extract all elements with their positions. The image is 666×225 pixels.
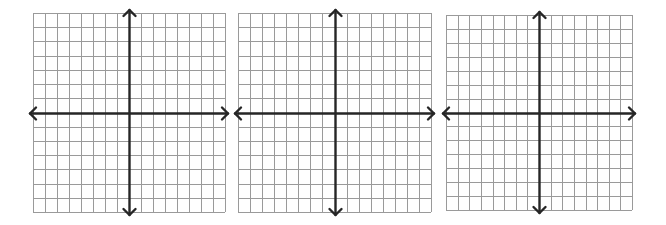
grid-svg	[446, 15, 632, 210]
coordinate-plane-1	[33, 13, 225, 212]
coordinate-plane-3	[446, 15, 632, 210]
grid-svg	[238, 13, 431, 212]
grid-svg	[33, 13, 225, 212]
coordinate-plane-2	[238, 13, 431, 212]
